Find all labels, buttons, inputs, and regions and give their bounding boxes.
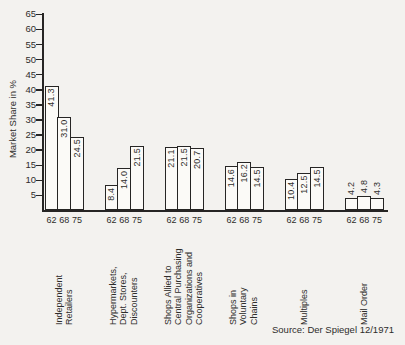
y-tick-label: 30: [12, 115, 36, 125]
y-tick: [36, 14, 42, 15]
category-label: Shops Allied to Central Purchasing Organ…: [163, 205, 205, 325]
y-tick-label: 55: [12, 40, 36, 50]
bar-value-label: 10.4: [286, 182, 297, 208]
category-label: Independent Retailers: [54, 205, 76, 325]
y-tick-label: 10: [12, 175, 36, 185]
y-tick: [36, 165, 42, 166]
y-tick-label: 50: [12, 55, 36, 65]
bar-value-label: 4.8: [359, 167, 370, 193]
x-axis-line: [42, 210, 388, 212]
y-tick: [36, 104, 42, 105]
bar-value-label: 14.0: [119, 171, 130, 208]
y-axis-line: [42, 13, 44, 212]
y-tick: [36, 119, 42, 120]
category-label: Shops in Voluntary Chains: [228, 205, 260, 325]
source-caption: Source: Der Spiegel 12/1971: [238, 324, 394, 335]
bar-value-label: 14.5: [312, 169, 323, 208]
year-label: 75: [369, 215, 385, 225]
bar: [370, 198, 384, 211]
y-tick-label: 15: [12, 160, 36, 170]
category-label: Mail Order: [359, 205, 370, 325]
y-tick: [36, 89, 42, 90]
bar-value-label: 20.7: [192, 151, 203, 208]
y-tick: [36, 29, 42, 30]
bar-value-label: 31.0: [59, 119, 70, 208]
y-tick-label: 5: [12, 190, 36, 200]
y-tick-label: 20: [12, 145, 36, 155]
y-tick: [36, 195, 42, 196]
y-tick: [36, 59, 42, 60]
y-tick: [36, 44, 42, 45]
category-label: Multiples: [299, 205, 310, 325]
y-tick: [36, 134, 42, 135]
category-label: Hypermarkets, Dept. Stores, Discounters: [108, 205, 140, 325]
chart-canvas: Market Share in % 6560555045403530252015…: [0, 0, 405, 345]
bar-value-label: 24.5: [72, 139, 83, 208]
y-tick-label: 60: [12, 24, 36, 34]
bar-value-label: 14.6: [226, 169, 237, 208]
y-tick: [36, 74, 42, 75]
y-tick-label: 40: [12, 85, 36, 95]
bar-value-label: 14.5: [252, 169, 263, 208]
bar-value-label: 21.5: [179, 148, 190, 208]
bar-value-label: 21.5: [132, 148, 143, 208]
bar-value-label: 21.1: [166, 149, 177, 208]
year-label: 75: [309, 215, 325, 225]
y-tick-label: 65: [12, 9, 36, 19]
bar-value-label: 4.2: [346, 169, 357, 195]
bar-value-label: 12.5: [299, 175, 310, 208]
y-tick: [36, 180, 42, 181]
y-tick-label: 45: [12, 70, 36, 80]
y-tick: [36, 149, 42, 150]
bar-value-label: 4.3: [372, 169, 383, 195]
y-tick-label: 35: [12, 100, 36, 110]
bar-value-label: 16.2: [239, 164, 250, 208]
y-tick-label: 25: [12, 130, 36, 140]
bar-value-label: 41.3: [46, 88, 57, 208]
